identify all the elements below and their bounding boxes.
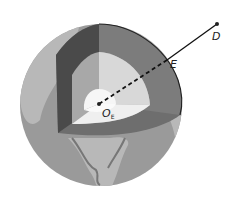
- earth-diagram: D E OE: [0, 0, 242, 203]
- label-D: D: [212, 30, 220, 43]
- point-center: [97, 102, 101, 106]
- cutaway: [56, 24, 182, 135]
- label-E: E: [170, 58, 177, 71]
- point-D: [215, 22, 219, 26]
